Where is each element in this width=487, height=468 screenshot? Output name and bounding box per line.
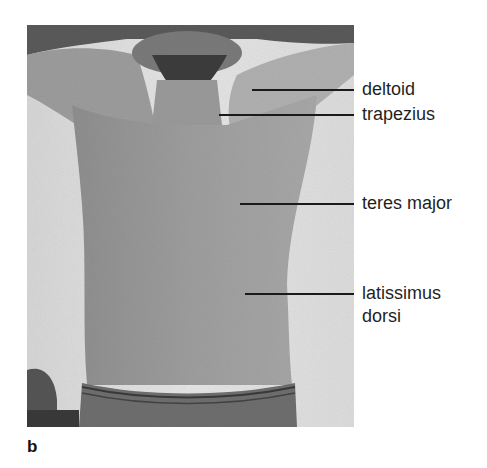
- leader-line-trapezius: [219, 114, 354, 116]
- anatomy-photo: [27, 25, 354, 427]
- leader-line-teres-major: [240, 203, 354, 205]
- label-latissimus-dorsi-line2: dorsi: [362, 306, 401, 326]
- label-teres-major: teres major: [362, 193, 452, 213]
- label-deltoid: deltoid: [362, 79, 415, 99]
- label-trapezius: trapezius: [362, 104, 435, 124]
- leader-line-deltoid: [252, 89, 354, 91]
- panel-letter: b: [27, 437, 37, 457]
- label-latissimus-dorsi-line1: latissimus: [362, 283, 441, 303]
- leader-line-latissimus-dorsi: [245, 293, 354, 295]
